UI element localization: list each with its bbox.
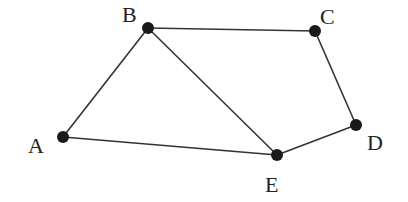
edge-c-d (315, 31, 356, 125)
edge-b-e (148, 28, 277, 155)
labels: ABCDE (28, 2, 383, 197)
node-label-b: B (122, 2, 137, 27)
node-label-c: C (320, 4, 335, 29)
node-b (142, 22, 154, 34)
node-label-a: A (28, 133, 44, 158)
edge-d-e (277, 125, 356, 155)
node-a (57, 131, 69, 143)
edge-a-e (63, 137, 277, 155)
node-label-d: D (367, 130, 383, 155)
graph-diagram: ABCDE (0, 0, 408, 202)
node-label-e: E (265, 172, 278, 197)
node-e (271, 149, 283, 161)
node-d (350, 119, 362, 131)
graph-svg: ABCDE (0, 0, 408, 202)
edges (63, 28, 356, 155)
edge-a-b (63, 28, 148, 137)
edge-b-c (148, 28, 315, 31)
